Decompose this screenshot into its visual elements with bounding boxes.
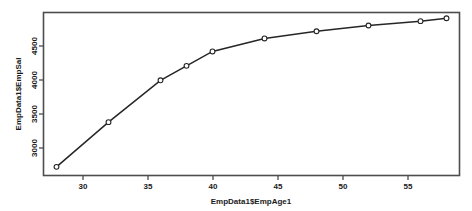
data-point (54, 164, 59, 169)
plot-background (0, 0, 472, 211)
scatter-line-plot: 30 35 40 45 50 55 3000 3500 4000 4500 Em… (0, 0, 472, 211)
data-point (106, 120, 111, 125)
data-point (418, 19, 423, 24)
y-tick-label-3: 4500 (30, 37, 39, 55)
y-tick-label-2: 4000 (30, 71, 39, 89)
data-point (184, 63, 189, 68)
x-tick-label-5: 55 (404, 182, 413, 191)
x-tick-label-2: 40 (209, 182, 218, 191)
screenshot-root: 30 35 40 45 50 55 3000 3500 4000 4500 Em… (0, 0, 472, 211)
x-tick-label-1: 35 (144, 182, 153, 191)
x-tick-label-3: 45 (274, 182, 283, 191)
y-axis-title: EmpData1$EmpSal (14, 58, 23, 131)
x-axis-title: EmpData1$EmpAge1 (211, 197, 292, 206)
data-point (262, 36, 267, 41)
data-point (366, 23, 371, 28)
data-point (314, 29, 319, 34)
x-tick-label-0: 30 (79, 182, 88, 191)
y-tick-label-1: 3500 (30, 105, 39, 123)
x-tick-label-4: 50 (339, 182, 348, 191)
data-point (210, 49, 215, 54)
data-point (158, 78, 163, 83)
data-point (444, 16, 449, 21)
y-tick-label-0: 3000 (30, 139, 39, 157)
